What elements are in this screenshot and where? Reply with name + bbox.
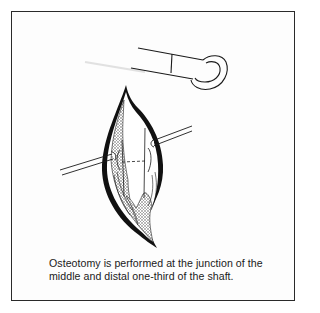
caption-line-1: Osteotomy is performed at the junction o… (49, 257, 289, 270)
incision-icon (102, 85, 163, 248)
figure-caption: Osteotomy is performed at the junction o… (49, 257, 289, 282)
hook-instrument-icon (131, 48, 227, 89)
smudge-mark (85, 62, 145, 72)
caption-line-2: middle and distal one-third of the shaft… (49, 270, 289, 283)
